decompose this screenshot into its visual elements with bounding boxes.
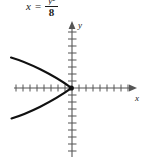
equation-lhs: x [26, 1, 31, 12]
equation-denominator: 8 [49, 7, 55, 18]
equation-numerator: y² [46, 0, 57, 5]
figure-canvas: x = y² 8 [0, 0, 145, 164]
equation-caption: x = y² 8 [26, 0, 58, 17]
y-axis-arrow [69, 21, 76, 29]
x-axis-arrow [129, 85, 137, 92]
vertex-marker [69, 85, 74, 90]
y-axis-label: y [77, 20, 82, 30]
x-axis-label: x [134, 93, 139, 103]
equation-relation: = [34, 1, 42, 12]
parabola-plot: x y [0, 18, 145, 164]
equation-fraction: y² 8 [45, 0, 58, 18]
x-axis [14, 85, 137, 92]
